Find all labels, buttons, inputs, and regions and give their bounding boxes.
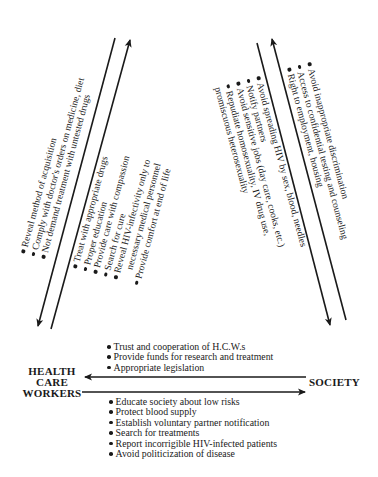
bullet-icon (109, 410, 113, 414)
bullet-icon (114, 275, 118, 279)
bullet-icon (73, 264, 77, 268)
bullet-icon (226, 84, 230, 88)
bullet-icon (41, 255, 45, 259)
bullet-icon (236, 81, 240, 85)
bullet-icon (109, 421, 113, 425)
bullet-icon (287, 67, 291, 71)
bullet-icon (109, 452, 113, 456)
bullet-icon (308, 62, 312, 66)
bullet-icon (93, 270, 97, 274)
bullet-icon (297, 65, 301, 69)
node-society: SOCIETY (309, 377, 360, 388)
bullet-icon (107, 345, 111, 349)
node-label-line: WORKERS (22, 388, 82, 399)
bullet-icon (109, 442, 113, 446)
bullet-icon (107, 355, 111, 359)
bullet-icon (83, 267, 87, 271)
bullet-icon (109, 431, 113, 435)
node-health-care-workers: HEALTH CARE WORKERS (22, 366, 82, 399)
bullet-icon (107, 366, 111, 370)
list-item: Appropriate legislation (107, 363, 273, 373)
list-item: Avoid politicization of disease (109, 449, 277, 459)
bullet-icon (104, 273, 108, 277)
bullet-icon (134, 281, 138, 285)
society-to-hcw-list: Trust and cooperation of H.C.W.s Provide… (107, 342, 273, 373)
bullet-icon (109, 400, 113, 404)
bullet-icon (246, 79, 250, 83)
bullet-icon (21, 249, 25, 253)
hcw-to-society-list: Educate society about low risks Protect … (109, 397, 277, 459)
bullet-icon (257, 76, 261, 80)
bullet-icon (31, 252, 35, 256)
